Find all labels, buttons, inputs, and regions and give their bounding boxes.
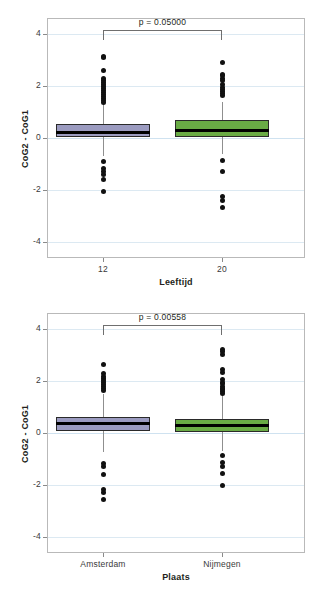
outlier-point: [220, 352, 225, 357]
outlier-point: [101, 490, 106, 495]
outlier-point: [101, 362, 106, 367]
bracket-left-leg: [103, 30, 104, 40]
x-axis-title: Leeftijd: [47, 277, 305, 287]
y-tick-mark: [43, 537, 47, 538]
x-tick-mark: [103, 258, 104, 262]
y-tick-label: -4: [13, 531, 41, 541]
gridline-y--4: [48, 537, 304, 538]
x-tick-label: 12: [58, 264, 148, 274]
outlier-point: [220, 483, 225, 488]
outlier-point: [101, 189, 106, 194]
outlier-point: [101, 172, 106, 177]
outlier-point: [220, 198, 225, 203]
outlier-point: [220, 471, 225, 476]
plot-area-plaats: CoG2 - CoG1 Plaats 420-2-4AmsterdamNijme…: [0, 295, 324, 590]
outlier-point: [220, 453, 225, 458]
y-tick-label: 2: [13, 375, 41, 385]
gridline-y-0: [48, 433, 304, 434]
bracket-right-leg: [221, 325, 222, 335]
outlier-point: [101, 177, 106, 182]
y-tick-mark: [43, 190, 47, 191]
bracket-bar: [103, 325, 222, 326]
y-tick-label: 0: [13, 132, 41, 142]
outlier-point: [101, 159, 106, 164]
y-tick-mark: [43, 485, 47, 486]
significance-bracket: [103, 30, 222, 40]
y-tick-mark: [43, 242, 47, 243]
y-tick-mark: [43, 138, 47, 139]
x-tick-label: Amsterdam: [58, 559, 148, 569]
y-tick-label: 0: [13, 427, 41, 437]
x-tick-mark: [222, 258, 223, 262]
y-tick-label: 4: [13, 323, 41, 333]
p-value-label: p = 0.05000: [103, 17, 222, 27]
outlier-point: [101, 497, 106, 502]
p-value-label: p = 0.00558: [103, 312, 222, 322]
significance-bracket: [103, 325, 222, 335]
gridline-y--4: [48, 242, 304, 243]
plot-area-leeftijd: CoG2 - CoG1 Leeftijd 420-2-41220p = 0.05…: [0, 0, 324, 295]
x-tick-mark: [103, 553, 104, 557]
outlier-point: [220, 60, 225, 65]
median-line: [175, 129, 269, 132]
outlier-point: [101, 100, 106, 105]
median-line: [175, 424, 269, 427]
x-axis-title: Plaats: [47, 572, 305, 582]
outlier-point: [101, 388, 106, 393]
gridline-y--2: [48, 485, 304, 486]
median-line: [56, 422, 150, 425]
gridline-y-0: [48, 138, 304, 139]
y-tick-mark: [43, 34, 47, 35]
bracket-right-leg: [221, 30, 222, 40]
y-tick-mark: [43, 329, 47, 330]
boxplot-panel-leeftijd: CoG2 - CoG1 Leeftijd 420-2-41220p = 0.05…: [0, 0, 324, 295]
y-tick-mark: [43, 86, 47, 87]
outlier-point: [220, 464, 225, 469]
outlier-point: [220, 391, 225, 396]
boxplot-panel-plaats: CoG2 - CoG1 Plaats 420-2-4AmsterdamNijme…: [0, 295, 324, 590]
y-tick-label: -2: [13, 184, 41, 194]
outlier-point: [220, 93, 225, 98]
outlier-point: [101, 464, 106, 469]
bracket-left-leg: [103, 325, 104, 335]
bracket-bar: [103, 30, 222, 31]
y-tick-mark: [43, 433, 47, 434]
outlier-point: [220, 370, 225, 375]
outlier-point: [220, 205, 225, 210]
gridline-y-2: [48, 86, 304, 87]
outlier-point: [220, 169, 225, 174]
y-tick-label: 2: [13, 80, 41, 90]
y-tick-label: -2: [13, 479, 41, 489]
median-line: [56, 131, 150, 134]
y-tick-mark: [43, 381, 47, 382]
x-tick-mark: [222, 553, 223, 557]
y-tick-label: 4: [13, 28, 41, 38]
outlier-point: [101, 472, 106, 477]
x-tick-label: Nijmegen: [177, 559, 267, 569]
x-tick-label: 20: [177, 264, 267, 274]
gridline-y-2: [48, 381, 304, 382]
gridline-y--2: [48, 190, 304, 191]
outlier-point: [101, 55, 106, 60]
outlier-point: [101, 68, 106, 73]
y-tick-label: -4: [13, 236, 41, 246]
